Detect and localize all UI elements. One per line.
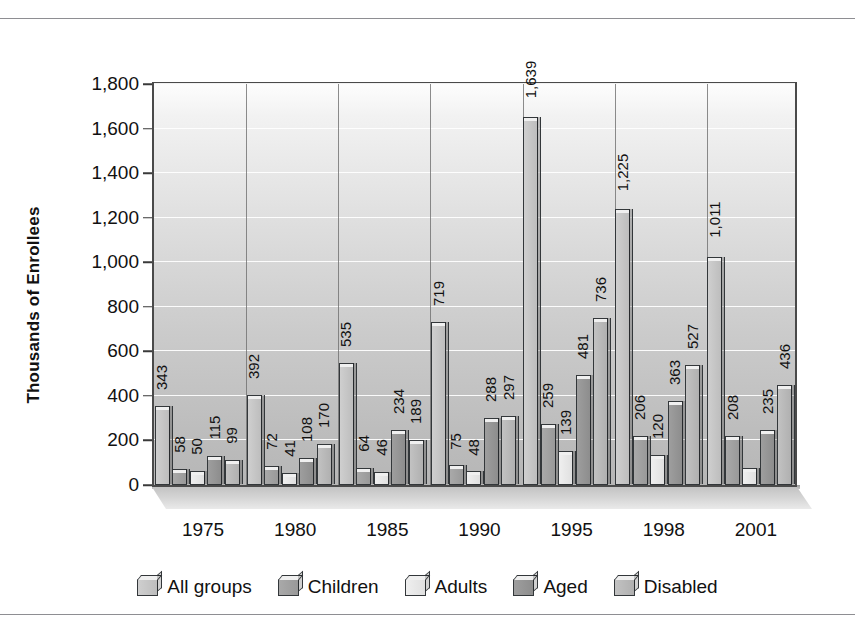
legend-swatch-side bbox=[298, 570, 303, 591]
bar[interactable] bbox=[685, 368, 700, 485]
bar[interactable] bbox=[523, 120, 538, 485]
bar[interactable] bbox=[576, 378, 591, 485]
bar[interactable] bbox=[282, 476, 297, 485]
bar[interactable] bbox=[356, 471, 371, 485]
bar-top-face bbox=[264, 466, 279, 470]
bar-top-face bbox=[282, 473, 297, 477]
y-axis-tick-mark bbox=[143, 128, 152, 130]
legend-item[interactable]: All groups bbox=[137, 576, 252, 598]
bar-top-face bbox=[374, 472, 389, 476]
bar-value-label: 120 bbox=[649, 411, 666, 443]
bar-value-label: 235 bbox=[759, 385, 776, 417]
bar-value-label: 72 bbox=[263, 430, 280, 453]
bar[interactable] bbox=[742, 471, 757, 485]
bar[interactable] bbox=[225, 463, 240, 485]
bar-value-label: 343 bbox=[154, 361, 171, 393]
bar-top-face bbox=[431, 322, 446, 326]
bar[interactable] bbox=[264, 469, 279, 485]
bar[interactable] bbox=[777, 388, 792, 485]
bar-value-label: 1,225 bbox=[614, 148, 631, 197]
legend-item[interactable]: Children bbox=[278, 576, 379, 598]
x-axis-labels: 1975198019851990199519982001 bbox=[152, 519, 812, 549]
bar-top-face bbox=[172, 469, 187, 473]
bar-top-face bbox=[685, 365, 700, 369]
bar-top-face bbox=[207, 456, 222, 460]
bar-side-face bbox=[699, 365, 703, 484]
bar-value-label: 189 bbox=[408, 396, 425, 428]
legend-swatch-side bbox=[157, 570, 162, 591]
x-axis-label: 1990 bbox=[458, 519, 500, 541]
bar[interactable] bbox=[650, 458, 665, 485]
bar[interactable] bbox=[190, 474, 205, 485]
bar-top-face bbox=[760, 430, 775, 434]
bar[interactable] bbox=[466, 474, 481, 485]
bar-top-face bbox=[356, 468, 371, 472]
bar-value-label: 115 bbox=[206, 412, 223, 444]
legend-label: Aged bbox=[543, 576, 587, 598]
legend-swatch-side bbox=[533, 570, 538, 591]
bar[interactable] bbox=[558, 454, 573, 485]
bar[interactable] bbox=[541, 427, 556, 485]
bar[interactable] bbox=[339, 366, 354, 485]
bar-top-face bbox=[615, 209, 630, 213]
bar-top-face bbox=[190, 471, 205, 475]
bar-value-label: 139 bbox=[557, 407, 574, 439]
bar[interactable] bbox=[317, 447, 332, 485]
bar-value-label: 436 bbox=[776, 341, 793, 373]
bar-top-face bbox=[576, 375, 591, 379]
bar-top-face bbox=[155, 406, 170, 410]
plot-floor bbox=[152, 487, 812, 509]
bar-side-face bbox=[607, 318, 611, 484]
bar-value-label: 206 bbox=[632, 392, 649, 424]
y-axis-tick-mark bbox=[143, 261, 152, 263]
legend-label: Children bbox=[308, 576, 379, 598]
legend-item[interactable]: Adults bbox=[405, 576, 488, 598]
bar[interactable] bbox=[409, 443, 424, 485]
bar-value-label: 535 bbox=[338, 319, 355, 351]
bar-value-label: 108 bbox=[298, 414, 315, 446]
bar[interactable] bbox=[593, 321, 608, 485]
legend-swatch-side bbox=[425, 570, 430, 591]
bar[interactable] bbox=[615, 212, 630, 485]
bar-value-label: 99 bbox=[224, 424, 241, 447]
bar-top-face bbox=[225, 460, 240, 464]
bar[interactable] bbox=[247, 398, 262, 485]
bar[interactable] bbox=[707, 260, 722, 485]
legend-item[interactable]: Disabled bbox=[614, 576, 718, 598]
bar-value-label: 208 bbox=[724, 391, 741, 423]
bar[interactable] bbox=[155, 409, 170, 485]
bar[interactable] bbox=[449, 468, 464, 485]
bar[interactable] bbox=[484, 421, 499, 485]
bar-value-label: 297 bbox=[500, 372, 517, 404]
y-axis-tick-mark bbox=[143, 395, 152, 397]
bar-side-face bbox=[445, 322, 449, 484]
y-axis-tick-mark bbox=[143, 306, 152, 308]
bar-top-face bbox=[339, 363, 354, 367]
y-axis-tick-mark bbox=[143, 83, 152, 85]
bar-top-face bbox=[247, 395, 262, 399]
bar-top-face bbox=[725, 436, 740, 440]
bar[interactable] bbox=[374, 475, 389, 485]
legend-item[interactable]: Aged bbox=[513, 576, 587, 598]
bar-side-face bbox=[331, 444, 335, 484]
bar[interactable] bbox=[207, 459, 222, 485]
bar[interactable] bbox=[299, 461, 314, 485]
bar-top-face bbox=[501, 416, 516, 420]
bar-top-face bbox=[558, 451, 573, 455]
bar-value-label: 363 bbox=[667, 357, 684, 389]
legend-swatch-icon bbox=[513, 579, 534, 596]
bar[interactable] bbox=[725, 439, 740, 485]
bar-chart-figure: Thousands of Enrollees 34358501159939272… bbox=[0, 19, 855, 613]
bar[interactable] bbox=[501, 419, 516, 485]
bar[interactable] bbox=[633, 439, 648, 485]
bar[interactable] bbox=[668, 404, 683, 485]
bar-value-label: 41 bbox=[281, 437, 298, 460]
bar-top-face bbox=[777, 385, 792, 389]
bar[interactable] bbox=[760, 433, 775, 485]
bar[interactable] bbox=[431, 325, 446, 485]
bar[interactable] bbox=[172, 472, 187, 485]
bar[interactable] bbox=[391, 433, 406, 485]
y-axis-tick-mark bbox=[143, 172, 152, 174]
bar-top-face bbox=[466, 471, 481, 475]
y-axis-title: Thousands of Enrollees bbox=[24, 185, 44, 425]
